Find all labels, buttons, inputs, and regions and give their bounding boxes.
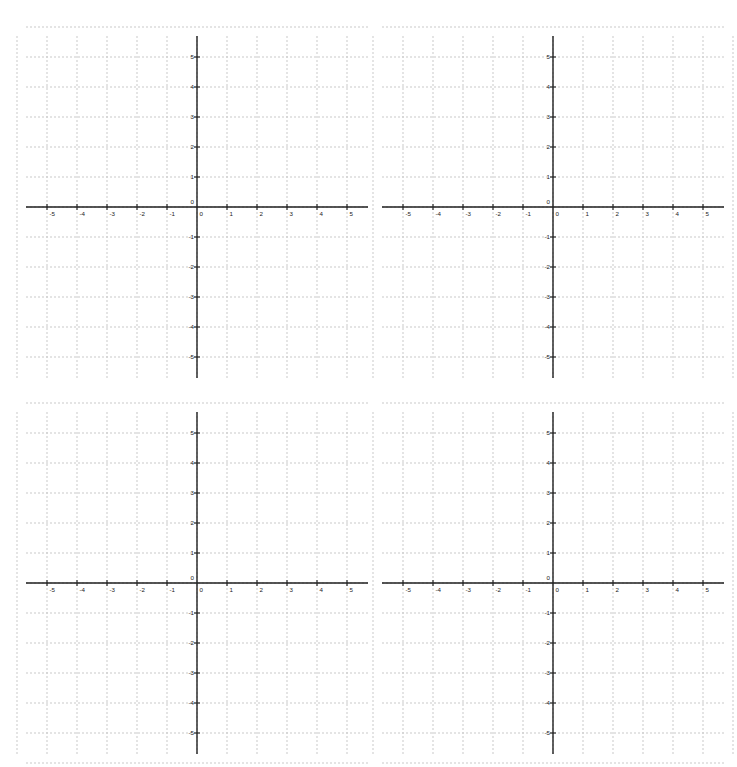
x-tick-label: 1 (230, 586, 234, 593)
x-tick-label: -1 (170, 586, 176, 593)
y-tick-label: 3 (191, 113, 195, 120)
y-tick-label: -3 (544, 293, 550, 300)
x-tick-label: 2 (616, 210, 620, 217)
x-tick-label: 1 (586, 210, 590, 217)
x-tick-label: -3 (110, 586, 116, 593)
x-tick-label: -5 (406, 210, 412, 217)
graph-cell-bottom-left: -5-4-3-2-112345-5-4-3-2-11234500 (0, 385, 369, 767)
y-tick-label: 2 (191, 143, 195, 150)
x-tick-label: -5 (50, 210, 56, 217)
y-tick-label: -2 (188, 263, 194, 270)
coordinate-plane[interactable]: -5-4-3-2-112345-5-4-3-2-11234500 (369, 385, 737, 767)
y-tick-label: 5 (191, 429, 195, 436)
y-tick-label: -2 (188, 639, 194, 646)
graph-cell-bottom-right: -5-4-3-2-112345-5-4-3-2-11234500 (369, 385, 737, 767)
x-tick-label: -2 (140, 210, 146, 217)
y-tick-label: -1 (188, 233, 194, 240)
y-tick-label: 4 (191, 459, 195, 466)
y-tick-label: 5 (191, 53, 195, 60)
x-tick-label: -4 (436, 586, 442, 593)
y-tick-label: -3 (188, 293, 194, 300)
origin-label-y: 0 (547, 574, 551, 581)
origin-label-x: 0 (200, 586, 204, 593)
origin-label-y: 0 (547, 198, 551, 205)
x-tick-label: 1 (586, 586, 590, 593)
x-tick-label: -1 (526, 210, 532, 217)
origin-label-y: 0 (191, 198, 195, 205)
coordinate-plane[interactable]: -5-4-3-2-112345-5-4-3-2-11234500 (369, 0, 737, 385)
y-tick-label: 3 (547, 113, 551, 120)
origin-label-x: 0 (200, 210, 204, 217)
y-tick-label: 3 (191, 489, 195, 496)
x-tick-label: 5 (706, 210, 710, 217)
coordinate-plane-canvas: -5-4-3-2-112345-5-4-3-2-11234500 (0, 385, 369, 767)
x-tick-label: 1 (230, 210, 234, 217)
x-tick-label: 2 (260, 210, 264, 217)
x-tick-label: 4 (320, 210, 324, 217)
graph-cell-top-right: -5-4-3-2-112345-5-4-3-2-11234500 (369, 0, 737, 385)
x-tick-label: 2 (260, 586, 264, 593)
x-tick-label: -2 (496, 210, 502, 217)
y-tick-label: -5 (188, 353, 194, 360)
y-tick-label: 2 (547, 143, 551, 150)
y-tick-label: -5 (544, 729, 550, 736)
coordinate-plane[interactable]: -5-4-3-2-112345-5-4-3-2-11234500 (0, 0, 369, 385)
y-tick-label: -4 (544, 699, 550, 706)
y-tick-label: -1 (188, 609, 194, 616)
x-tick-label: -5 (406, 586, 412, 593)
coordinate-grid-sheet: -5-4-3-2-112345-5-4-3-2-11234500 -5-4-3-… (0, 0, 737, 767)
x-tick-label: 4 (320, 586, 324, 593)
x-tick-label: 3 (646, 210, 650, 217)
y-tick-label: 1 (191, 549, 195, 556)
y-tick-label: -2 (544, 639, 550, 646)
graph-cell-top-left: -5-4-3-2-112345-5-4-3-2-11234500 (0, 0, 369, 385)
y-tick-label: 1 (547, 549, 551, 556)
x-tick-label: -4 (436, 210, 442, 217)
y-tick-label: -5 (544, 353, 550, 360)
coordinate-plane[interactable]: -5-4-3-2-112345-5-4-3-2-11234500 (0, 385, 369, 767)
y-tick-label: -5 (188, 729, 194, 736)
x-tick-label: -4 (80, 586, 86, 593)
y-tick-label: 5 (547, 429, 551, 436)
x-tick-label: -2 (140, 586, 146, 593)
x-tick-label: -4 (80, 210, 86, 217)
y-tick-label: -1 (544, 233, 550, 240)
coordinate-plane-canvas: -5-4-3-2-112345-5-4-3-2-11234500 (0, 0, 369, 385)
x-tick-label: -3 (466, 210, 472, 217)
x-tick-label: -2 (496, 586, 502, 593)
coordinate-plane-canvas: -5-4-3-2-112345-5-4-3-2-11234500 (369, 385, 737, 767)
origin-label-x: 0 (556, 586, 560, 593)
y-tick-label: 4 (547, 459, 551, 466)
x-tick-label: -1 (170, 210, 176, 217)
x-tick-label: -1 (526, 586, 532, 593)
coordinate-plane-canvas: -5-4-3-2-112345-5-4-3-2-11234500 (369, 0, 737, 385)
y-tick-label: -4 (544, 323, 550, 330)
y-tick-label: -3 (544, 669, 550, 676)
y-tick-label: -4 (188, 323, 194, 330)
y-tick-label: 5 (547, 53, 551, 60)
x-tick-label: 5 (350, 586, 354, 593)
y-tick-label: 1 (547, 173, 551, 180)
x-tick-label: 3 (646, 586, 650, 593)
origin-label-x: 0 (556, 210, 560, 217)
x-tick-label: 2 (616, 586, 620, 593)
x-tick-label: -3 (110, 210, 116, 217)
y-tick-label: 2 (191, 519, 195, 526)
x-tick-label: 4 (676, 586, 680, 593)
x-tick-label: -3 (466, 586, 472, 593)
x-tick-label: 3 (290, 586, 294, 593)
x-tick-label: -5 (50, 586, 56, 593)
x-tick-label: 5 (706, 586, 710, 593)
y-tick-label: 4 (547, 83, 551, 90)
y-tick-label: -3 (188, 669, 194, 676)
x-tick-label: 4 (676, 210, 680, 217)
y-tick-label: -2 (544, 263, 550, 270)
y-tick-label: -1 (544, 609, 550, 616)
y-tick-label: 3 (547, 489, 551, 496)
y-tick-label: 2 (547, 519, 551, 526)
y-tick-label: -4 (188, 699, 194, 706)
origin-label-y: 0 (191, 574, 195, 581)
y-tick-label: 1 (191, 173, 195, 180)
x-tick-label: 3 (290, 210, 294, 217)
x-tick-label: 5 (350, 210, 354, 217)
